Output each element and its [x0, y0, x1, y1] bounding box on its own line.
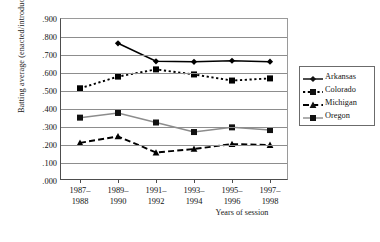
series-line: [80, 113, 270, 132]
x-axis-tick-label: 1989–1990: [108, 186, 129, 207]
x-axis-tick-label: 1987–1988: [70, 186, 91, 207]
legend-swatch-icon: [302, 110, 324, 122]
data-point: [153, 66, 159, 72]
legend-label: Oregon: [324, 111, 350, 120]
y-axis-tick-label: .500: [42, 87, 57, 96]
legend-item-colorado[interactable]: Colorado: [302, 83, 371, 96]
data-point: [229, 78, 235, 84]
x-axis-tick-label: 1993–1994: [184, 186, 205, 207]
plot-area: .900.800.700.600.500.400.300.200.100.000…: [60, 18, 288, 180]
gridline: [61, 163, 287, 164]
data-point: [191, 129, 197, 135]
x-axis-tick-label: 1995–1996: [222, 186, 243, 207]
x-axis-tick-label: 1991–1992: [146, 186, 167, 207]
x-axis-title: Years of session: [0, 208, 380, 217]
y-axis-tick-label: .800: [42, 33, 57, 42]
y-axis-tick-label: .100: [42, 159, 57, 168]
x-axis-tick: [118, 179, 119, 183]
x-axis-tick-label: 1997–1998: [260, 186, 281, 207]
gridline: [61, 109, 287, 110]
y-axis-tick-label: .400: [42, 105, 57, 114]
x-axis-tick: [232, 179, 233, 183]
gridline: [61, 127, 287, 128]
gridline: [61, 37, 287, 38]
legend-label: Arkansas: [324, 72, 356, 81]
data-point: [191, 59, 197, 65]
legend-label: Colorado: [324, 85, 356, 94]
legend-swatch-icon: [302, 84, 324, 96]
y-axis-title: Batting average (enacted/introduced): [17, 0, 26, 136]
data-point: [153, 120, 159, 126]
y-axis-tick-label: .900: [42, 15, 57, 24]
y-axis-tick-label: .600: [42, 69, 57, 78]
gridline: [61, 55, 287, 56]
x-axis-tick: [270, 179, 271, 183]
legend-swatch-icon: [302, 97, 324, 109]
legend-item-arkansas[interactable]: Arkansas: [302, 70, 371, 83]
legend-swatch-icon: [302, 71, 324, 83]
legend-item-michigan[interactable]: Michigan: [302, 96, 371, 109]
series-arkansas: [115, 40, 273, 65]
data-point: [267, 75, 273, 81]
y-axis-tick-label: .000: [42, 177, 57, 186]
data-point: [115, 133, 122, 139]
y-axis-tick-label: .300: [42, 123, 57, 132]
x-axis-tick: [194, 179, 195, 183]
chart-legend: ArkansasColoradoMichiganOregon: [299, 66, 375, 126]
data-point: [115, 40, 121, 46]
data-point: [267, 59, 273, 65]
legend-item-oregon[interactable]: Oregon: [302, 109, 371, 122]
data-point: [153, 58, 159, 64]
y-axis-tick-label: .200: [42, 141, 57, 150]
legend-label: Michigan: [324, 98, 357, 107]
series-layer: [61, 19, 289, 181]
gridline: [61, 73, 287, 74]
x-axis-tick: [80, 179, 81, 183]
data-point: [229, 58, 235, 64]
gridline: [61, 145, 287, 146]
y-axis-tick-label: .700: [42, 51, 57, 60]
data-point: [115, 74, 121, 80]
data-point: [115, 110, 121, 116]
series-colorado: [77, 66, 273, 91]
chart-figure: Batting average (enacted/introduced) .90…: [0, 0, 380, 242]
gridline: [61, 91, 287, 92]
x-axis-tick: [156, 179, 157, 183]
data-point: [77, 115, 83, 121]
series-oregon: [77, 110, 273, 135]
